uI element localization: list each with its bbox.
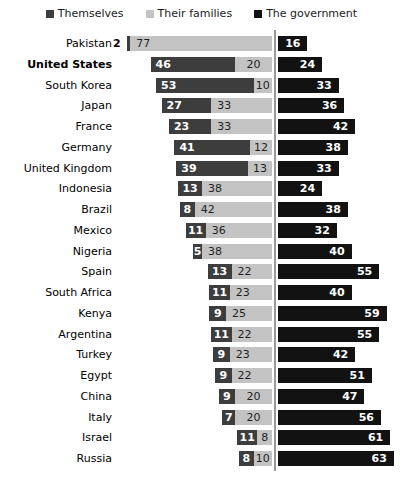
bar-their-families: 22	[232, 368, 272, 383]
bar-themselves: 13	[208, 264, 232, 279]
bar-their-families: 10	[254, 451, 272, 466]
category-label: Israel	[0, 430, 112, 445]
bar-the-government: 47	[278, 389, 364, 404]
chart-row: Japan273336	[0, 98, 403, 113]
chart-row: Kenya92559	[0, 306, 403, 321]
bar-the-government: 36	[278, 98, 344, 113]
bar-the-government: 55	[278, 327, 379, 342]
bar-themselves: 9	[215, 368, 232, 383]
chart-row: Italy72056	[0, 410, 403, 425]
bar-themselves: 8	[180, 202, 195, 217]
bar-themselves: 9	[209, 306, 226, 321]
bar-the-government: 24	[278, 181, 322, 196]
chart-row: United States462024	[0, 57, 403, 72]
bar-the-government: 63	[278, 451, 394, 466]
category-label: Turkey	[0, 347, 112, 362]
chart-row: France233342	[0, 119, 403, 134]
bar-their-families: 13	[248, 161, 272, 176]
bar-the-government: 38	[278, 140, 348, 155]
category-label: France	[0, 119, 112, 134]
category-label: Argentina	[0, 327, 112, 342]
bar-their-families: 20	[235, 410, 272, 425]
category-label: United Kingdom	[0, 161, 112, 176]
bar-the-government: 55	[278, 264, 379, 279]
bar-themselves: 11	[211, 327, 231, 342]
bar-the-government: 33	[278, 78, 339, 93]
category-label: United States	[0, 57, 112, 72]
category-label: Germany	[0, 140, 112, 155]
bar-themselves: 11	[186, 223, 206, 238]
bar-the-government: 42	[278, 119, 355, 134]
category-label: China	[0, 389, 112, 404]
bar-themselves: 53	[156, 78, 254, 93]
category-label: Kenya	[0, 306, 112, 321]
value-themselves-outside: 2	[105, 36, 121, 51]
bar-their-families: 22	[232, 327, 272, 342]
chart-row: South Africa112340	[0, 285, 403, 300]
category-label: South Africa	[0, 285, 112, 300]
bar-the-government: 59	[278, 306, 387, 321]
chart-row: Argentina112255	[0, 327, 403, 342]
category-label: Egypt	[0, 368, 112, 383]
chart-row: Pakistan27716	[0, 36, 403, 51]
bar-themselves: 5	[193, 244, 202, 259]
bar-their-families: 8	[257, 430, 272, 445]
chart-row: South Korea531033	[0, 78, 403, 93]
bar-the-government: 61	[278, 430, 390, 445]
plot-area: Pakistan27716United States462024South Ko…	[0, 0, 403, 481]
bar-the-government: 38	[278, 202, 348, 217]
bar-themselves: 9	[219, 389, 236, 404]
category-label: Italy	[0, 410, 112, 425]
category-label: Brazil	[0, 202, 112, 217]
bar-their-families: 25	[226, 306, 272, 321]
category-label: Mexico	[0, 223, 112, 238]
chart-row: Russia81063	[0, 451, 403, 466]
chart-row: Spain132255	[0, 264, 403, 279]
bar-themselves: 9	[213, 347, 230, 362]
bar-themselves: 8	[239, 451, 254, 466]
chart-row: Turkey92342	[0, 347, 403, 362]
bar-themselves: 7	[222, 410, 235, 425]
bar-the-government: 40	[278, 244, 352, 259]
bar-themselves: 11	[209, 285, 229, 300]
bar-their-families: 20	[235, 57, 272, 72]
chart-row: Mexico113632	[0, 223, 403, 238]
bar-themselves: 39	[176, 161, 248, 176]
bar-their-families: 33	[211, 98, 272, 113]
bar-their-families: 23	[230, 347, 272, 362]
chart-row: Brazil84238	[0, 202, 403, 217]
bar-their-families: 20	[235, 389, 272, 404]
chart-row: China92047	[0, 389, 403, 404]
chart-row: Indonesia133824	[0, 181, 403, 196]
chart-row: Germany411238	[0, 140, 403, 155]
category-label: Indonesia	[0, 181, 112, 196]
bar-themselves: 41	[174, 140, 249, 155]
bar-themselves: 23	[169, 119, 211, 134]
category-label: Japan	[0, 98, 112, 113]
chart-row: United Kingdom391333	[0, 161, 403, 176]
chart-canvas: Themselves Their families The government…	[0, 0, 403, 481]
category-label: Russia	[0, 451, 112, 466]
bar-the-government: 16	[278, 36, 307, 51]
bar-their-families: 36	[206, 223, 272, 238]
bar-themselves: 27	[162, 98, 212, 113]
bar-the-government: 32	[278, 223, 337, 238]
bar-their-families: 38	[202, 181, 272, 196]
bar-the-government: 51	[278, 368, 372, 383]
bar-the-government: 56	[278, 410, 381, 425]
bar-their-families: 77	[130, 36, 272, 51]
bar-themselves: 11	[237, 430, 257, 445]
bar-themselves: 13	[178, 181, 202, 196]
chart-row: Egypt92251	[0, 368, 403, 383]
category-label: Pakistan	[0, 36, 112, 51]
bar-their-families: 38	[202, 244, 272, 259]
bar-themselves: 46	[151, 57, 236, 72]
category-label: Nigeria	[0, 244, 112, 259]
bar-the-government: 33	[278, 161, 339, 176]
bar-their-families: 12	[250, 140, 272, 155]
bar-their-families: 22	[232, 264, 272, 279]
bar-their-families: 23	[230, 285, 272, 300]
bar-their-families: 10	[254, 78, 272, 93]
bar-their-families: 33	[211, 119, 272, 134]
chart-row: Nigeria53840	[0, 244, 403, 259]
